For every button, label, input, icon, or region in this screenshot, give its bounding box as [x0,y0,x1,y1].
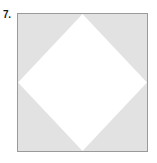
shape-diagram-svg [18,14,147,151]
outer-square-shape [17,13,148,152]
problem-number-label: 7. [3,9,11,21]
inner-diamond-shape [18,14,147,151]
figure-container: 7. [0,0,157,163]
